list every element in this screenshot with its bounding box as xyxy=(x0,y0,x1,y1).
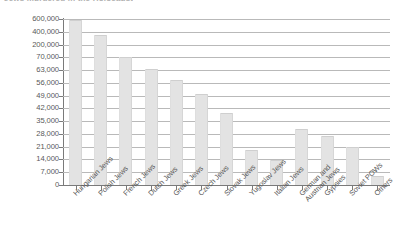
y-axis-tick-mark xyxy=(59,147,63,148)
x-axis-tick-mark xyxy=(252,186,253,190)
y-axis-tick-mark xyxy=(59,96,63,97)
y-axis-tick-mark xyxy=(59,57,63,58)
x-axis-tick-mark xyxy=(126,186,127,190)
y-axis-tick-mark xyxy=(59,45,63,46)
x-axis-tick-mark xyxy=(101,186,102,190)
y-axis-tick-mark xyxy=(59,70,63,71)
y-axis-tick-mark xyxy=(59,32,63,33)
x-axis-tick-mark xyxy=(201,186,202,190)
x-axis-tick-mark xyxy=(227,186,228,190)
x-axis-tick-mark xyxy=(327,186,328,190)
y-axis-tick-mark xyxy=(59,134,63,135)
y-axis-tick-mark xyxy=(59,121,63,122)
x-axis-tick-mark xyxy=(176,186,177,190)
x-axis-tick-mark xyxy=(302,186,303,190)
y-axis-tick-mark xyxy=(59,172,63,173)
x-axis-tick-mark xyxy=(277,186,278,190)
bar-chart: Jews murdered in the Holocaust 600,00040… xyxy=(0,0,394,251)
x-axis-tick-mark xyxy=(151,186,152,190)
y-axis-tick-mark xyxy=(59,159,63,160)
x-axis-tick-mark xyxy=(352,186,353,190)
x-axis-labels-layer: Hungarian JewsPolish JewsFrench JewsDutc… xyxy=(0,0,394,251)
x-axis-tick-mark xyxy=(377,186,378,190)
y-axis-tick-mark xyxy=(59,108,63,109)
y-axis-tick-mark xyxy=(59,83,63,84)
x-axis-tick-mark xyxy=(76,186,77,190)
y-axis-tick-mark xyxy=(59,19,63,20)
y-axis-tick-mark xyxy=(59,185,63,186)
